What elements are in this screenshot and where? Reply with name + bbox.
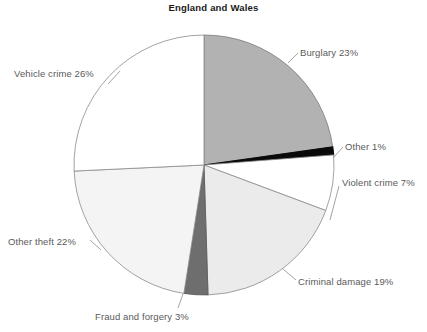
slice-label-other-theft: Other theft 22% — [8, 236, 76, 247]
slice-label-other: Other 1% — [345, 141, 386, 152]
leader-line-fraud-and-forgery — [178, 294, 183, 308]
pie-slice-group — [74, 35, 334, 295]
slice-label-burglary: Burglary 23% — [300, 47, 358, 58]
slice-label-fraud-and-forgery: Fraud and forgery 3% — [95, 311, 189, 322]
leader-line-other — [333, 147, 343, 158]
slice-label-violent-crime: Violent crime 7% — [342, 177, 415, 188]
slice-label-criminal-damage: Criminal damage 19% — [298, 276, 393, 287]
pie-slice-vehicle-crime — [74, 35, 204, 171]
leader-line-criminal-damage — [283, 269, 296, 280]
slice-label-vehicle-crime: Vehicle crime 26% — [14, 68, 94, 79]
leader-line-burglary — [288, 53, 298, 63]
pie-slice-other-theft — [74, 165, 204, 293]
